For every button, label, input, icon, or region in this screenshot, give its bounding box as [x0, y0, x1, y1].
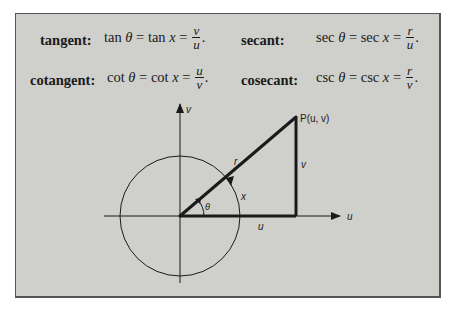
arc-label: x: [240, 191, 247, 202]
angle-label: θ: [205, 202, 210, 212]
axis-v-label: v: [186, 104, 192, 115]
vertical-side-label: v: [301, 159, 307, 170]
axis-u-label: u: [347, 211, 353, 222]
horizontal-side-label: u: [258, 221, 264, 232]
unit-circle-diagram: P(u, v) v u r v u x θ: [0, 0, 453, 310]
point-label: P(u, v): [300, 113, 329, 124]
